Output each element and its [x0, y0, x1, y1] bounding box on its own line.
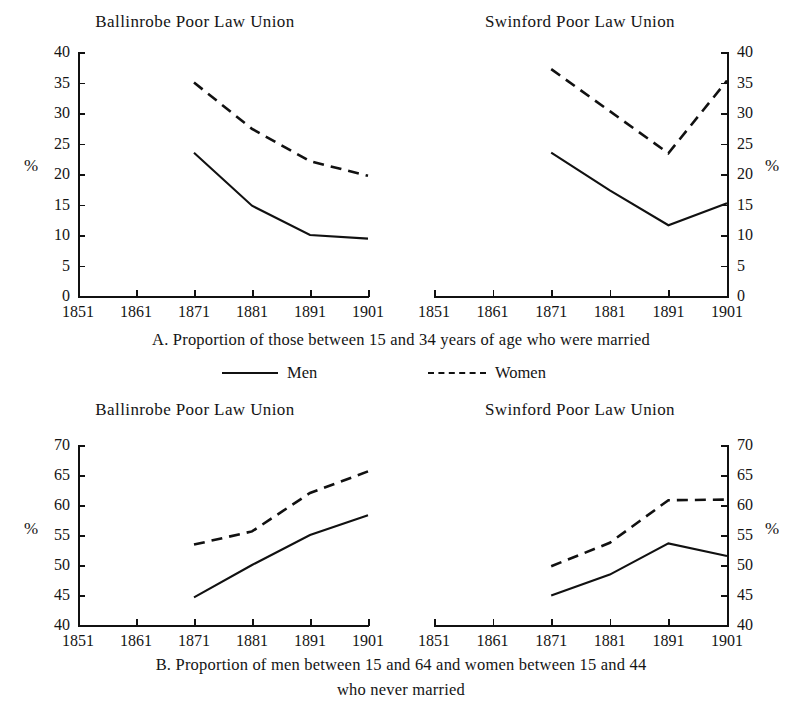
b-swinford-series-layer — [0, 0, 802, 711]
chart-render-layer: 1851186118711881189119010510152025303540… — [0, 0, 802, 711]
b-swinford-line-men — [551, 543, 727, 595]
b-swinford-line-women — [551, 500, 727, 567]
figure-page: Ballinrobe Poor Law Union % Swinford Poo… — [0, 0, 802, 711]
